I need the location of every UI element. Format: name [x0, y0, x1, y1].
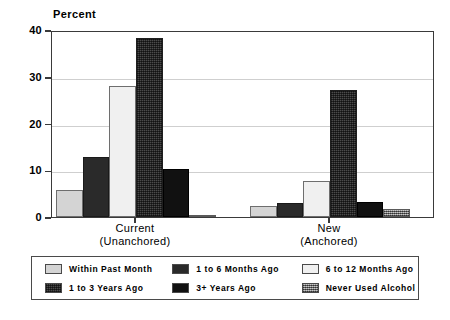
- x-axis-category-line1: New: [318, 222, 341, 234]
- y-axis-tick-label: 30: [29, 71, 42, 83]
- legend-swatch-icon: [45, 283, 62, 293]
- bar: [383, 209, 410, 217]
- bar: [277, 203, 304, 217]
- bar: [303, 181, 330, 217]
- legend-swatch-icon: [172, 283, 189, 293]
- bar: [250, 206, 277, 217]
- legend-label: 3+ Years Ago: [196, 283, 256, 293]
- legend-swatch-icon: [45, 264, 62, 274]
- legend-swatch-icon: [302, 283, 319, 293]
- legend-label: Never Used Alcohol: [326, 283, 416, 293]
- bar: [56, 190, 83, 217]
- bar: [189, 215, 216, 217]
- legend-label: Within Past Month: [69, 264, 152, 274]
- bar: [109, 86, 136, 217]
- legend-label: 1 to 6 Months Ago: [196, 264, 279, 274]
- y-axis-tick-label: 0: [36, 211, 42, 223]
- bar: [357, 202, 384, 217]
- legend: Within Past Month1 to 6 Months Ago6 to 1…: [31, 256, 419, 300]
- legend-row: Within Past Month1 to 6 Months Ago6 to 1…: [32, 259, 418, 279]
- x-axis-category-label: New(Anchored): [269, 222, 389, 248]
- y-axis-tick-label: 20: [29, 118, 42, 130]
- legend-item[interactable]: 6 to 12 Months Ago: [302, 259, 418, 279]
- legend-item[interactable]: 1 to 3 Years Ago: [32, 278, 172, 298]
- y-axis-tick-label: 10: [29, 164, 42, 176]
- legend-item[interactable]: 1 to 6 Months Ago: [172, 259, 301, 279]
- chart-screenshot: Percent 010203040 Current(Unanchored)New…: [0, 0, 450, 320]
- x-axis-category-line2: (Unanchored): [75, 235, 195, 248]
- legend-swatch-icon: [172, 264, 189, 274]
- x-axis-category-line2: (Anchored): [269, 235, 389, 248]
- y-axis-title: Percent: [53, 8, 96, 20]
- bar: [330, 90, 357, 217]
- legend-swatch-icon: [302, 264, 319, 274]
- bar: [136, 38, 163, 217]
- legend-label: 6 to 12 Months Ago: [326, 264, 414, 274]
- plot-inner: [52, 32, 433, 217]
- legend-label: 1 to 3 Years Ago: [69, 283, 143, 293]
- legend-item[interactable]: 3+ Years Ago: [172, 278, 301, 298]
- gridline: [52, 79, 433, 80]
- legend-row: 1 to 3 Years Ago3+ Years AgoNever Used A…: [32, 278, 418, 298]
- bar: [163, 169, 190, 217]
- plot-area: [51, 31, 434, 218]
- legend-item[interactable]: Within Past Month: [32, 259, 172, 279]
- bar: [83, 157, 110, 217]
- y-axis-tick-label: 40: [29, 24, 42, 36]
- legend-item[interactable]: Never Used Alcohol: [302, 278, 418, 298]
- x-axis-category-line1: Current: [116, 222, 155, 234]
- x-axis-category-label: Current(Unanchored): [75, 222, 195, 248]
